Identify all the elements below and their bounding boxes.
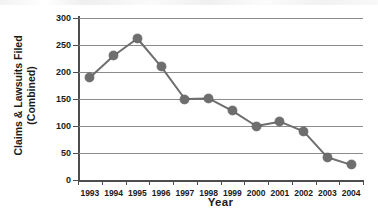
x-tick-9	[292, 180, 293, 185]
x-tick-8	[268, 180, 269, 185]
y-tick-label-150: 150	[56, 94, 71, 104]
data-point-1998	[204, 94, 213, 103]
plot-area: 050100150200250300 199319941995199619971…	[78, 18, 363, 180]
data-point-2004	[347, 160, 356, 169]
data-point-1999	[228, 106, 237, 115]
y-axis-title-line-1: Claims & Lawsuits Filed	[12, 35, 25, 155]
data-point-2000	[252, 122, 261, 131]
x-tick-7	[244, 180, 245, 185]
x-tick-2	[126, 180, 127, 185]
y-tick-label-250: 250	[56, 40, 71, 50]
x-axis-title: Year	[78, 196, 363, 208]
x-tick-1	[102, 180, 103, 185]
x-tick-3	[149, 180, 150, 185]
y-tick-label-50: 50	[61, 148, 71, 158]
y-tick-label-100: 100	[56, 121, 71, 131]
x-tick-0	[78, 180, 79, 185]
y-tick-label-300: 300	[56, 13, 71, 23]
data-point-2003	[323, 153, 332, 162]
y-axis-title-line-2: (Combined)	[24, 35, 37, 155]
y-axis-title: Claims & Lawsuits Filed (Combined)	[0, 0, 48, 190]
data-point-1994	[109, 51, 118, 60]
x-tick-11	[339, 180, 340, 185]
x-tick-12	[363, 180, 364, 185]
data-point-2001	[275, 117, 284, 126]
data-point-1996	[157, 62, 166, 71]
scan-artifact	[0, 0, 378, 5]
data-point-1993	[85, 73, 94, 82]
y-tick-label-200: 200	[56, 67, 71, 77]
x-tick-6	[221, 180, 222, 185]
data-point-2002	[299, 127, 308, 136]
data-point-1995	[133, 34, 142, 43]
x-tick-4	[173, 180, 174, 185]
data-markers	[78, 18, 363, 180]
y-tick-label-0: 0	[66, 175, 71, 185]
x-tick-10	[316, 180, 317, 185]
data-point-1997	[180, 95, 189, 104]
line-chart: Claims & Lawsuits Filed (Combined) 05010…	[0, 0, 378, 220]
x-tick-5	[197, 180, 198, 185]
